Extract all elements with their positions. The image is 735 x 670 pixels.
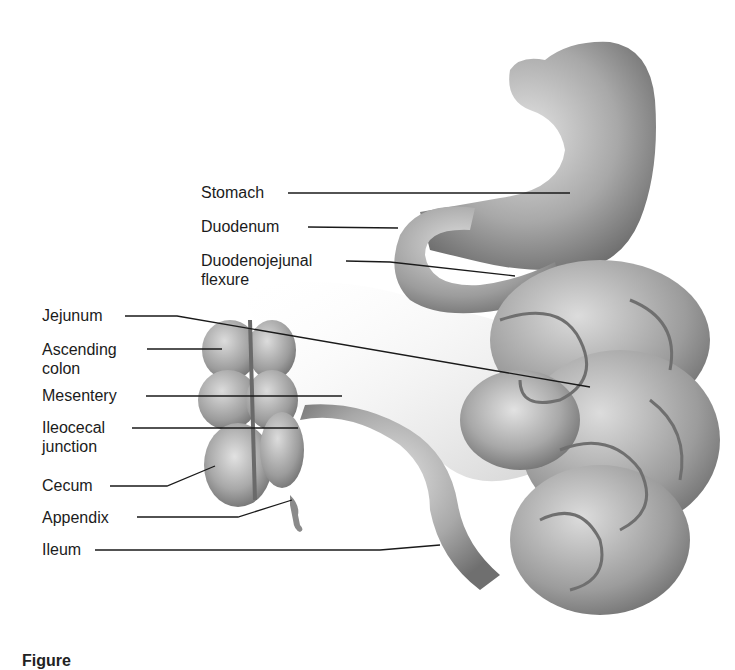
label-line: Duodenojejunal	[201, 251, 312, 270]
label-ileum: Ileum	[42, 540, 81, 559]
label-duodenojejunal-flexure: Duodenojejunal flexure	[201, 251, 312, 289]
label-mesentery: Mesentery	[42, 386, 117, 405]
label-line: Ascending	[42, 340, 117, 359]
colon-shape	[198, 320, 304, 507]
figure-caption: Figure	[22, 652, 71, 670]
small-intestine-coils	[460, 260, 720, 615]
label-stomach: Stomach	[201, 183, 264, 202]
label-line: colon	[42, 359, 117, 378]
stomach-shape	[420, 42, 656, 271]
label-ileocecal-junction: Ileocecal junction	[42, 418, 105, 456]
label-appendix: Appendix	[42, 508, 109, 527]
label-ascending-colon: Ascending colon	[42, 340, 117, 378]
label-cecum: Cecum	[42, 476, 93, 495]
label-duodenum: Duodenum	[201, 217, 279, 236]
label-line: Ileocecal	[42, 418, 105, 437]
label-jejunum: Jejunum	[42, 306, 102, 325]
label-line: flexure	[201, 270, 312, 289]
label-line: junction	[42, 437, 105, 456]
